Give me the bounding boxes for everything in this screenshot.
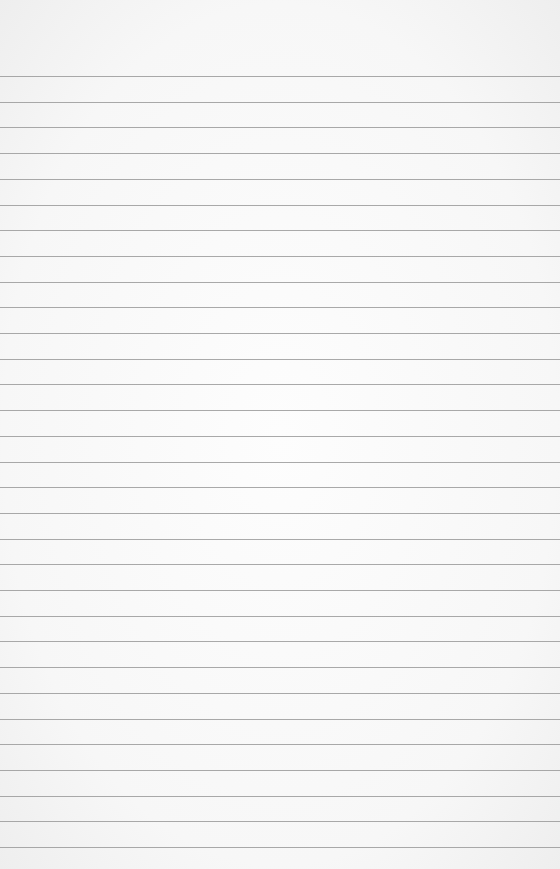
ruled-line: [0, 307, 560, 308]
ruled-line: [0, 333, 560, 334]
ruled-line: [0, 616, 560, 617]
ruled-line: [0, 693, 560, 694]
ruled-line: [0, 436, 560, 437]
ruled-line: [0, 410, 560, 411]
ruled-line: [0, 127, 560, 128]
ruled-line: [0, 205, 560, 206]
ruled-line: [0, 513, 560, 514]
ruled-line: [0, 76, 560, 77]
ruled-line: [0, 153, 560, 154]
ruled-line: [0, 796, 560, 797]
ruled-line: [0, 564, 560, 565]
ruled-line: [0, 462, 560, 463]
ruled-line: [0, 821, 560, 822]
ruled-line: [0, 359, 560, 360]
ruled-line: [0, 282, 560, 283]
ruled-line: [0, 487, 560, 488]
ruled-line: [0, 719, 560, 720]
ruled-line: [0, 539, 560, 540]
lined-paper: [0, 0, 560, 869]
ruled-line: [0, 230, 560, 231]
ruled-line: [0, 102, 560, 103]
ruled-line: [0, 667, 560, 668]
ruled-line: [0, 179, 560, 180]
ruled-line: [0, 256, 560, 257]
ruled-line: [0, 590, 560, 591]
ruled-line: [0, 384, 560, 385]
ruled-line: [0, 770, 560, 771]
ruled-line: [0, 641, 560, 642]
ruled-line: [0, 744, 560, 745]
ruled-line: [0, 847, 560, 848]
